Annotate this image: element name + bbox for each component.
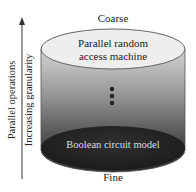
- cylinder-top-face: [41, 29, 185, 69]
- bottom-model-label: Boolean circuit model: [66, 139, 159, 150]
- fine-label: Fine: [103, 171, 123, 183]
- top-model-label-line2: access machine: [79, 50, 147, 62]
- vertical-ellipsis-icon: [110, 87, 114, 105]
- top-model-label-line1: Parallel random: [78, 37, 148, 49]
- axis-label-increasing-granularity: Increasing granularity: [23, 53, 34, 146]
- granularity-axis: Parallel operations Increasing granulari…: [6, 17, 34, 179]
- axis-label-parallel-operations: Parallel operations: [6, 61, 17, 139]
- coarse-label: Coarse: [98, 12, 129, 24]
- arrow-up-icon: [19, 17, 25, 25]
- granularity-cylinder-diagram: Parallel operations Increasing granulari…: [0, 0, 196, 192]
